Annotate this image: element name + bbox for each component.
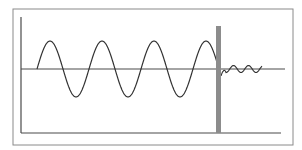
- barrier-bar: [216, 26, 221, 133]
- diagram-canvas: [0, 0, 302, 150]
- wave-diagram: [0, 0, 302, 150]
- outer-frame: [13, 9, 293, 145]
- damped-wave: [221, 66, 262, 76]
